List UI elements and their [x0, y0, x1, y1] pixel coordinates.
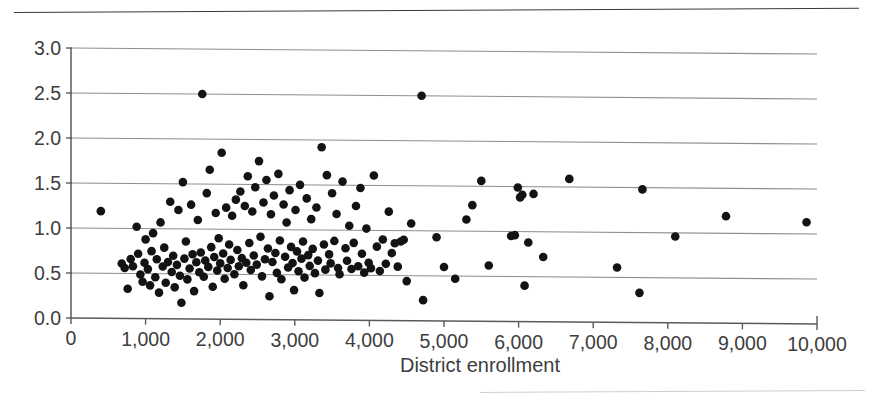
- data-point: [529, 190, 538, 199]
- data-point: [245, 239, 254, 248]
- data-point: [205, 165, 214, 174]
- data-point: [141, 235, 150, 244]
- data-point: [328, 189, 337, 198]
- data-point: [170, 283, 179, 292]
- data-point: [207, 243, 216, 252]
- data-point: [312, 203, 321, 212]
- data-point: [173, 261, 182, 270]
- data-point: [97, 207, 106, 216]
- data-point: [210, 253, 219, 262]
- data-point: [635, 289, 644, 298]
- data-point: [144, 265, 153, 274]
- data-point: [722, 212, 731, 221]
- data-point: [222, 203, 231, 212]
- data-point: [345, 221, 354, 230]
- y-axis-tick-label: 3.0: [34, 37, 61, 59]
- x-axis-tick-label: 1,000: [121, 328, 170, 350]
- data-point: [638, 185, 647, 194]
- x-axis-tick-label: 6,000: [494, 331, 543, 353]
- data-point: [252, 260, 261, 269]
- data-point: [217, 148, 226, 157]
- data-point: [248, 207, 257, 216]
- data-point: [211, 209, 220, 218]
- data-point: [161, 278, 170, 287]
- figure-page: 0.00.51.01.52.02.53.0 01,0002,0003,0004,…: [0, 0, 872, 408]
- y-axis-tick-label: 2.0: [34, 127, 61, 149]
- data-point: [514, 183, 523, 192]
- data-point: [267, 210, 276, 219]
- data-point: [451, 274, 460, 283]
- data-point: [343, 257, 352, 266]
- data-point: [613, 263, 622, 272]
- data-point: [399, 235, 408, 244]
- data-point: [169, 252, 178, 261]
- data-point: [276, 236, 285, 245]
- scatter-plot: 0.00.51.01.52.02.53.0 01,0002,0003,0004,…: [0, 0, 872, 408]
- data-point: [152, 255, 161, 264]
- data-point: [256, 232, 265, 241]
- data-point: [282, 218, 291, 227]
- gridline: [71, 138, 817, 144]
- gridline: [71, 228, 817, 234]
- data-point: [262, 176, 271, 185]
- data-point: [468, 201, 477, 210]
- data-point: [356, 184, 365, 193]
- data-point: [354, 262, 363, 271]
- data-point: [167, 268, 176, 277]
- data-point: [379, 235, 388, 244]
- x-axis-tick-label: 0: [66, 327, 77, 349]
- data-point: [393, 262, 402, 271]
- data-point: [208, 282, 217, 291]
- data-point: [332, 210, 341, 219]
- data-point: [299, 237, 308, 246]
- data-point: [484, 261, 493, 270]
- data-point: [440, 263, 449, 272]
- data-point: [180, 254, 189, 263]
- y-axis-tick-label: 1.0: [34, 217, 61, 239]
- data-point: [176, 271, 185, 280]
- data-point: [190, 287, 199, 296]
- x-axis-tick-label: 10,000: [787, 333, 847, 355]
- data-point: [671, 232, 680, 241]
- data-point: [160, 243, 169, 252]
- data-point: [358, 249, 367, 258]
- data-point: [432, 233, 441, 242]
- data-point: [151, 273, 160, 282]
- data-point: [341, 244, 350, 253]
- data-point: [182, 237, 191, 246]
- x-axis-tick-label: 2,000: [196, 328, 245, 350]
- data-point: [268, 258, 277, 267]
- x-axis-title: District enrollment: [400, 354, 560, 376]
- y-axis-tick-label: 2.5: [34, 82, 61, 104]
- data-point: [376, 267, 385, 276]
- data-point: [166, 197, 175, 206]
- data-point: [518, 190, 527, 199]
- data-point: [179, 178, 188, 187]
- data-point: [242, 258, 251, 267]
- data-point: [308, 245, 317, 254]
- data-point: [236, 187, 245, 196]
- data-point: [323, 171, 332, 180]
- data-point: [387, 249, 396, 258]
- x-axis-tick-label: 5,000: [420, 330, 469, 352]
- data-point: [134, 249, 143, 258]
- data-point: [520, 281, 529, 290]
- data-point: [271, 249, 280, 258]
- data-point: [402, 277, 411, 286]
- data-point: [199, 272, 208, 281]
- data-point: [230, 270, 239, 279]
- data-point: [317, 143, 326, 152]
- data-point: [214, 234, 223, 243]
- data-point: [194, 216, 203, 225]
- data-point: [219, 249, 228, 258]
- x-axis-tick-labels: 01,0002,0003,0004,0005,0006,0007,0008,00…: [66, 327, 847, 355]
- data-point: [132, 222, 141, 231]
- data-point: [146, 281, 155, 290]
- data-point: [539, 253, 548, 262]
- data-point: [384, 207, 393, 216]
- data-point: [259, 198, 268, 207]
- data-point: [149, 229, 158, 238]
- data-point: [315, 289, 324, 298]
- data-point: [216, 259, 225, 268]
- data-point: [294, 267, 303, 276]
